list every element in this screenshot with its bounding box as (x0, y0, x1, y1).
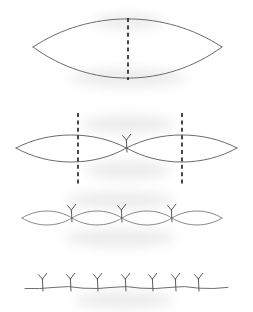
cusp-arm-right (152, 273, 156, 279)
cusp-arm-right (42, 273, 46, 279)
lens-4-lower (172, 218, 222, 225)
lens-1-upper (16, 135, 127, 148)
lens-4-upper (172, 211, 222, 218)
lens-1-upper (22, 211, 72, 218)
cusp-arm-left (172, 275, 176, 279)
cusp-stem (171, 210, 172, 222)
flattened-baseline (25, 287, 228, 289)
cusp-arm-left (67, 275, 71, 279)
cusp-y-marker-2 (67, 273, 75, 291)
lens-3-lower (122, 218, 172, 225)
cusp-marker-group (39, 273, 203, 291)
cusp-arm-left (39, 275, 43, 279)
cusp-arm-left (168, 206, 172, 210)
cusp-arm-right (125, 273, 129, 279)
cusp-arm-left (149, 275, 153, 279)
cusp-stem (42, 279, 43, 291)
lens-1-lower (22, 218, 72, 225)
cusp-stem (71, 210, 72, 222)
cusp-stem (125, 279, 126, 291)
lens-subdivision-diagram (0, 0, 253, 312)
shadow-blob-5 (64, 229, 176, 247)
figure-root: Stage 1 — single lens Stage 2 — two lens… (0, 0, 253, 312)
cusp-arm-right (171, 204, 175, 210)
cusp-stem (121, 210, 122, 222)
cusp-y-marker-4 (122, 273, 130, 291)
cusp-arm-right (126, 134, 130, 140)
cusp-arm-right (97, 273, 101, 279)
row-single-lens (33, 18, 222, 80)
cusp-arm-right (198, 273, 202, 279)
cusp-arm-left (94, 275, 98, 279)
shadow-blob-4 (64, 192, 176, 208)
cusp-arm-right (71, 204, 75, 210)
cusp-arm-left (68, 206, 72, 210)
lens-2-upper (72, 211, 122, 218)
cusp-arm-left (195, 275, 199, 279)
cusp-y-marker-6 (172, 273, 180, 291)
lens-3-upper (122, 211, 172, 218)
cusp-stem (126, 140, 127, 152)
row-flattened-line (25, 273, 228, 291)
lens-2-lower (72, 218, 122, 225)
cusp-arm-right (70, 273, 74, 279)
cusp-stem (70, 279, 71, 291)
shadow-blob-6 (74, 292, 174, 308)
cusp-arm-left (123, 136, 127, 140)
cusp-stem (198, 279, 199, 291)
cusp-stem (175, 279, 176, 291)
cusp-stem (152, 279, 153, 291)
lens-1-lower (16, 148, 127, 162)
cusp-arm-left (122, 275, 126, 279)
shadow-blob-2 (82, 115, 174, 133)
shadow-blob-3 (86, 161, 170, 179)
cusp-arm-right (175, 273, 179, 279)
cusp-stem (97, 279, 98, 291)
